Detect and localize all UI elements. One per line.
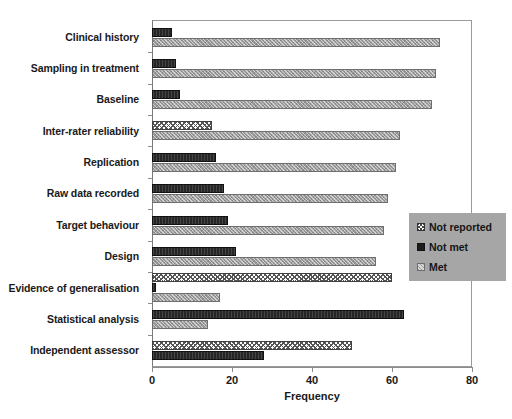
x-axis-tick-label: 0 — [149, 374, 155, 386]
legend-item-not-reported[interactable]: Not reported — [417, 219, 500, 234]
category-label: Baseline — [0, 84, 146, 115]
bar-met — [152, 320, 208, 329]
bar-notmet — [152, 90, 180, 99]
bar-met — [152, 163, 396, 172]
bar-met — [152, 226, 384, 235]
category-axis-tick — [148, 178, 152, 179]
chart-legend: Not reported Not met Met — [409, 213, 506, 281]
bar-notmet — [152, 153, 216, 162]
legend-swatch-not-reported-icon — [417, 223, 425, 231]
x-axis-tick-label: 80 — [466, 374, 478, 386]
legend-swatch-not-met-icon — [417, 243, 425, 251]
category-axis-tick — [148, 209, 152, 210]
category-bar-group — [152, 84, 472, 115]
category-label: Inter-rater reliability — [0, 115, 146, 146]
category-label: Sampling in treatment — [0, 52, 146, 83]
bar-notmet — [152, 351, 264, 360]
category-label: Evidence of generalisation — [0, 272, 146, 303]
bar-met — [152, 38, 440, 47]
legend-label-not-reported: Not reported — [429, 221, 492, 233]
bar-chart: Clinical historySampling in treatmentBas… — [0, 0, 512, 419]
x-axis-tick-label: 40 — [306, 374, 318, 386]
bar-met — [152, 293, 220, 302]
x-axis-title: Frequency — [152, 390, 472, 402]
bar-met — [152, 100, 432, 109]
bar-notmet — [152, 184, 224, 193]
category-axis-tick — [148, 115, 152, 116]
category-label: Replication — [0, 146, 146, 177]
x-axis-tick — [392, 367, 393, 372]
category-label: Clinical history — [0, 21, 146, 52]
legend-label-met: Met — [429, 261, 447, 273]
bar-met — [152, 194, 388, 203]
category-bar-group — [152, 52, 472, 83]
bar-notmet — [152, 216, 228, 225]
bar-notmet — [152, 247, 236, 256]
x-axis-tick-label: 60 — [386, 374, 398, 386]
x-axis-tick-label: 20 — [226, 374, 238, 386]
category-axis-tick — [148, 84, 152, 85]
x-axis-tick — [472, 367, 473, 372]
bar-notmet — [152, 310, 404, 319]
bar-notmet — [152, 59, 176, 68]
bar-met — [152, 257, 376, 266]
category-axis-tick — [148, 52, 152, 53]
bar-notreported — [152, 273, 392, 282]
category-label: Independent assessor — [0, 335, 146, 366]
legend-label-not-met: Not met — [429, 241, 468, 253]
category-label: Statistical analysis — [0, 303, 146, 334]
category-axis-tick — [148, 303, 152, 304]
category-bar-group — [152, 303, 472, 334]
plot-bars-container — [152, 21, 472, 366]
bar-notmet — [152, 28, 172, 37]
category-bar-group — [152, 178, 472, 209]
category-bar-group — [152, 335, 472, 366]
category-label: Target behaviour — [0, 209, 146, 240]
x-axis-tick — [312, 367, 313, 372]
category-axis-tick — [148, 335, 152, 336]
category-label: Design — [0, 241, 146, 272]
category-label: Raw data recorded — [0, 178, 146, 209]
bar-notreported — [152, 121, 212, 130]
legend-item-met[interactable]: Met — [417, 259, 500, 274]
category-bar-group — [152, 115, 472, 146]
legend-swatch-met-icon — [417, 263, 425, 271]
bar-met — [152, 69, 436, 78]
bar-notmet — [152, 283, 156, 292]
category-axis-tick — [148, 241, 152, 242]
bar-met — [152, 131, 400, 140]
x-axis-tick — [232, 367, 233, 372]
category-axis-labels: Clinical historySampling in treatmentBas… — [0, 21, 146, 366]
category-bar-group — [152, 146, 472, 177]
x-axis-tick — [152, 367, 153, 372]
category-axis-tick — [148, 146, 152, 147]
bar-notreported — [152, 341, 352, 350]
legend-item-not-met[interactable]: Not met — [417, 239, 500, 254]
category-bar-group — [152, 21, 472, 52]
